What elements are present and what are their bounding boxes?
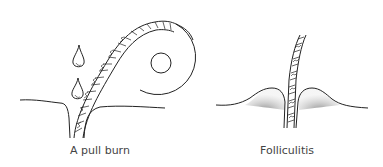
figure: A pull burn Folliculitis: [0, 0, 383, 167]
inflamed-bump-right-shade: [299, 88, 340, 110]
hair-shaft-edge-outer: [74, 21, 176, 138]
roller-inner-circle: [151, 53, 171, 73]
droplet-lower: [72, 78, 83, 99]
hair-shaft-edge-inner: [83, 30, 174, 138]
illustration: [0, 0, 383, 167]
droplet-lower-highlight: [75, 95, 80, 97]
droplet-upper: [73, 45, 84, 67]
caption-folliculitis: Folliculitis: [260, 144, 314, 157]
roller-outer-circle: [140, 24, 196, 95]
folliculitis-drawing: [216, 35, 368, 128]
hair-shaft-edge-left: [287, 35, 300, 128]
skin-surface-right: [84, 106, 165, 138]
caption-pull-burn: A pull burn: [70, 144, 130, 157]
skin-surface-left: [20, 100, 70, 138]
pull-burn-drawing: [20, 21, 196, 138]
droplet-upper-highlight: [76, 63, 81, 65]
hair-shaft-edge-right: [294, 35, 306, 128]
inflamed-bump-left-shade: [245, 88, 285, 110]
